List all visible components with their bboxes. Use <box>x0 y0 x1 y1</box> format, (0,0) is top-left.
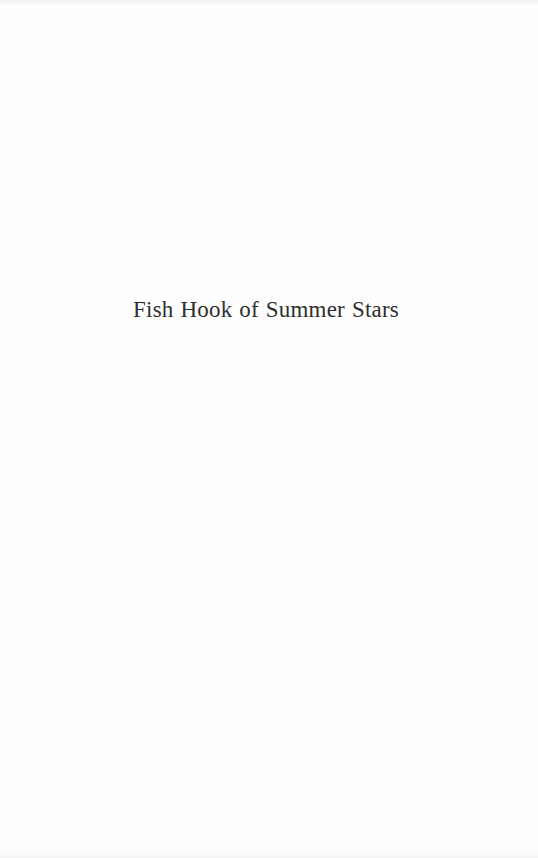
scan-top-edge <box>0 0 538 6</box>
book-title: Fish Hook of Summer Stars <box>0 297 532 323</box>
scan-bottom-edge <box>0 850 538 858</box>
book-half-title-page: Fish Hook of Summer Stars <box>0 0 538 858</box>
